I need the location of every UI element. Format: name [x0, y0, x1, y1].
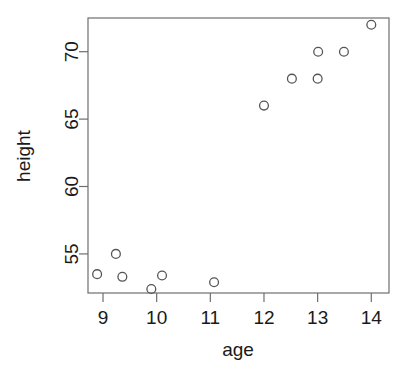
scatter-plot-figure: 91011121314 55606570 age height — [0, 0, 408, 377]
y-tick-label-55: 55 — [62, 243, 83, 264]
x-tick-label-11: 11 — [200, 307, 220, 328]
x-tick-label-9: 9 — [98, 307, 109, 328]
y-tick-label-70: 70 — [62, 41, 83, 62]
y-tick-label-65: 65 — [62, 109, 83, 130]
x-axis-title: age — [222, 339, 254, 360]
x-tick-label-10: 10 — [146, 307, 167, 328]
chart-canvas: 91011121314 55606570 age height — [0, 0, 408, 377]
y-axis-title: height — [13, 129, 34, 181]
x-tick-label-14: 14 — [361, 307, 383, 328]
x-tick-label-13: 13 — [307, 307, 328, 328]
x-tick-label-12: 12 — [253, 307, 274, 328]
y-tick-label-60: 60 — [62, 176, 83, 197]
